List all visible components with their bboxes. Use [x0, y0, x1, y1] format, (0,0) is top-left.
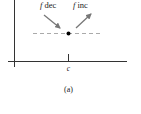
x-tick-label-c: c [67, 64, 71, 73]
f-dec-label: f dec [40, 0, 57, 10]
f-inc-label: f inc [73, 0, 88, 10]
figure-caption: (a) [64, 85, 73, 94]
increasing-arrow-icon [76, 14, 91, 28]
critical-point-diagram: f dec f inc c (a) [0, 0, 141, 114]
critical-point [67, 32, 71, 36]
decreasing-arrow-icon [44, 15, 60, 28]
